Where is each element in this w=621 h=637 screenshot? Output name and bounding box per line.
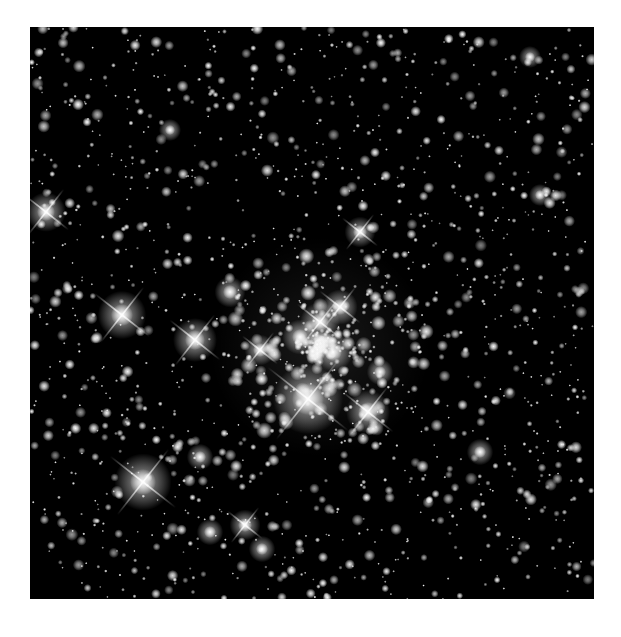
starfield-canvas bbox=[30, 27, 594, 599]
star-cluster-image bbox=[30, 27, 594, 599]
